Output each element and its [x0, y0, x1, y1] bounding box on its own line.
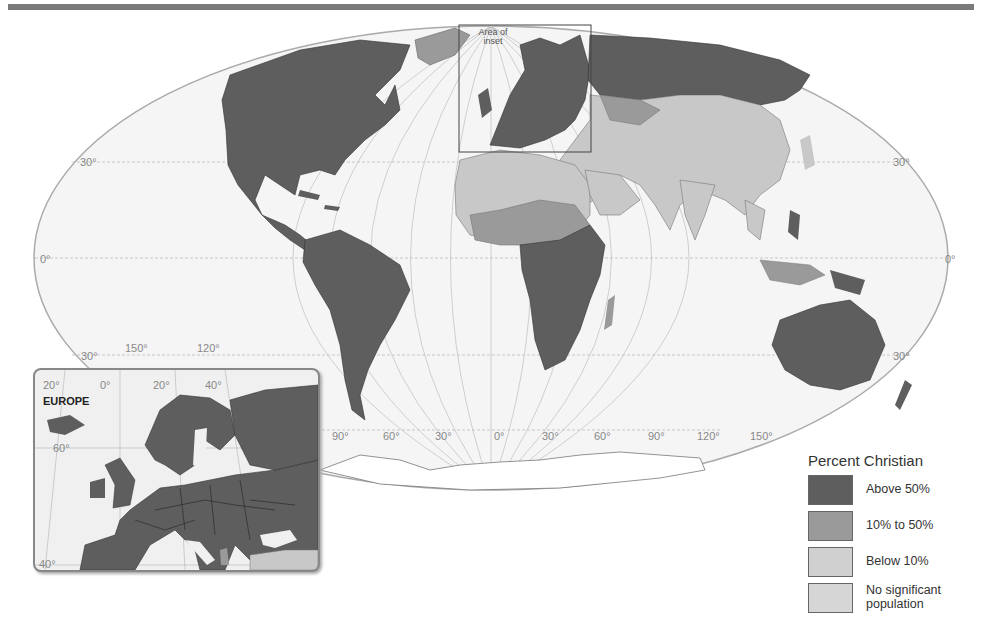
- legend-title: Percent Christian: [808, 452, 978, 469]
- legend-item-below-10: Below 10%: [808, 547, 978, 577]
- lon-label-30w: 30°: [435, 430, 452, 442]
- inset-lon-label-0: 0°: [100, 379, 111, 391]
- lon-label-60e: 60°: [594, 430, 611, 442]
- inset-lat-label-40: 40°: [39, 558, 56, 570]
- lon-label-60w: 60°: [383, 430, 400, 442]
- lon-label-90e: 90°: [648, 430, 665, 442]
- legend-swatch: [808, 583, 853, 613]
- europe-inset: 20° 0° 20° 40° EUROPE 60° 40°: [33, 368, 320, 572]
- legend-label: Above 50%: [866, 482, 930, 496]
- legend-swatch: [808, 511, 853, 541]
- lat-label-30n: 30°: [80, 156, 97, 168]
- lon-label-120e: 120°: [697, 430, 720, 442]
- lat-label-30n-right: 30°: [893, 156, 910, 168]
- legend: Percent Christian Above 50% 10% to 50% B…: [808, 452, 978, 619]
- legend-item-no-significant: No significant population: [808, 583, 978, 613]
- legend-label: Below 10%: [866, 554, 929, 568]
- legend-item-above-50: Above 50%: [808, 475, 978, 505]
- legend-swatch: [808, 547, 853, 577]
- inset-lon-label-20w: 20°: [43, 379, 60, 391]
- lat-label-0: 0°: [40, 253, 51, 265]
- lon-label-0: 0°: [494, 430, 505, 442]
- inset-title: EUROPE: [43, 395, 89, 407]
- new-zealand: [895, 380, 912, 410]
- legend-swatch: [808, 475, 853, 505]
- lat-label-30s: 30°: [81, 350, 98, 362]
- lat-label-0-right: 0°: [945, 253, 956, 265]
- inset-lon-label-40e: 40°: [205, 379, 222, 391]
- inset-area-label: Area of inset: [473, 28, 513, 46]
- lon-label-90w: 90°: [332, 430, 349, 442]
- legend-label: 10% to 50%: [866, 518, 933, 532]
- lon-label-150w: 150°: [125, 342, 148, 354]
- legend-label: No significant population: [866, 583, 956, 611]
- inset-lat-label-60: 60°: [53, 442, 70, 454]
- inset-lon-label-20e: 20°: [153, 379, 170, 391]
- lon-label-150e: 150°: [750, 430, 773, 442]
- lat-label-30s-right: 30°: [893, 350, 910, 362]
- russia: [588, 35, 810, 105]
- lon-label-30e: 30°: [542, 430, 559, 442]
- lon-label-120w: 120°: [197, 342, 220, 354]
- legend-item-10-to-50: 10% to 50%: [808, 511, 978, 541]
